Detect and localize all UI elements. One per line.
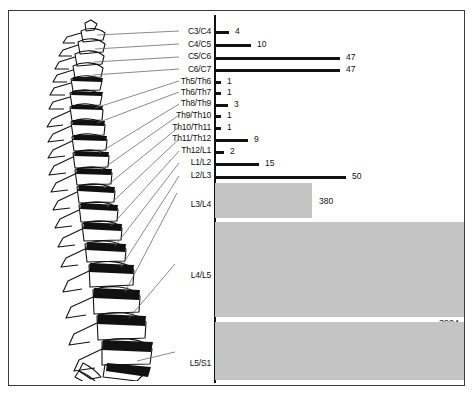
bar-value-label: 3 bbox=[234, 100, 239, 109]
disc-level-label: Th6/Th7 bbox=[127, 88, 211, 97]
bar-th11-th12 bbox=[215, 139, 248, 142]
bar-value-label: 2 bbox=[230, 147, 235, 156]
disc-level-label: Th10/Th11 bbox=[127, 123, 211, 132]
bar-value-label: 15 bbox=[265, 159, 274, 168]
bar-value-label: 1 bbox=[227, 111, 232, 120]
bar-value-label: 1 bbox=[227, 88, 232, 97]
bar-th8-th9 bbox=[215, 104, 228, 107]
figure-frame: C3/C44C4/C510C5/C647C6/C747Th5/Th61Th6/T… bbox=[8, 10, 465, 386]
bar-l2-l3 bbox=[215, 176, 346, 179]
bar-value-label: 10 bbox=[257, 40, 266, 49]
disc-level-label: Th11/Th12 bbox=[127, 134, 211, 143]
bar-th12-l1 bbox=[215, 151, 224, 154]
disc-level-label: Th12/L1 bbox=[127, 146, 211, 155]
disc-level-label: L4/L5 bbox=[127, 271, 211, 280]
bar-c4-c5 bbox=[215, 44, 251, 47]
disc-level-label: Th8/Th9 bbox=[127, 99, 211, 108]
bar-th10-th11 bbox=[215, 127, 221, 130]
bar-value-label: 50 bbox=[352, 172, 361, 181]
disc-level-label: L3/L4 bbox=[127, 200, 211, 209]
bar-chart: C3/C44C4/C510C5/C647C6/C747Th5/Th61Th6/T… bbox=[9, 11, 465, 386]
bar-l1-l2 bbox=[215, 163, 259, 166]
bar-value-label: 47 bbox=[346, 53, 355, 62]
disc-level-label: C4/C5 bbox=[127, 40, 211, 49]
bar-value-label: 4 bbox=[235, 27, 240, 36]
disc-level-label: C3/C4 bbox=[127, 27, 211, 36]
disc-level-label: Th5/Th6 bbox=[127, 77, 211, 86]
disc-level-label: L5/S1 bbox=[127, 359, 211, 368]
bar-l5-s1 bbox=[215, 322, 465, 380]
bar-th6-th7 bbox=[215, 92, 221, 95]
disc-level-label: C5/C6 bbox=[127, 52, 211, 61]
disc-level-label: Th9/Th10 bbox=[127, 111, 211, 120]
bar-value-label: 1 bbox=[227, 123, 232, 132]
bar-th5-th6 bbox=[215, 81, 221, 84]
bar-l3-l4 bbox=[215, 183, 312, 218]
bar-c6-c7 bbox=[215, 69, 340, 72]
bar-th9-th10 bbox=[215, 115, 221, 118]
bar-c3-c4 bbox=[215, 31, 229, 34]
disc-level-label: L1/L2 bbox=[127, 158, 211, 167]
disc-level-label: C6/C7 bbox=[127, 65, 211, 74]
disc-level-label: L2/L3 bbox=[127, 171, 211, 180]
bar-c5-c6 bbox=[215, 57, 340, 60]
bar-l4-l5 bbox=[215, 222, 465, 317]
bar-value-label: 1 bbox=[227, 77, 232, 86]
bar-value-label: 9 bbox=[254, 135, 259, 144]
bar-value-label: 380 bbox=[319, 197, 333, 206]
bar-value-label: 47 bbox=[346, 65, 355, 74]
